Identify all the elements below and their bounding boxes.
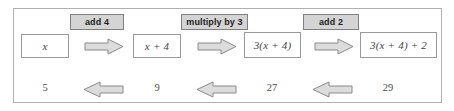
expression-box-4: 3(x + 4) + 2 xyxy=(360,32,437,58)
function-machine-diagram: add 4 multiply by 3 add 2 x x + 4 3(x + … xyxy=(0,0,454,111)
reverse-arrow-1 xyxy=(82,81,124,98)
forward-arrow-2 xyxy=(197,38,237,55)
expression-box-1-text: x xyxy=(42,40,47,52)
operation-chip-3-label: add 2 xyxy=(319,17,343,27)
operation-chip-3: add 2 xyxy=(303,14,359,30)
forward-arrow-1 xyxy=(84,38,124,55)
expression-box-4-text: 3(x + 4) + 2 xyxy=(370,39,427,51)
operation-chip-1-label: add 4 xyxy=(85,17,109,27)
expression-box-3-text: 3(x + 4) xyxy=(254,39,292,51)
reverse-value-1: 5 xyxy=(17,82,73,93)
expression-box-3: 3(x + 4) xyxy=(244,32,301,58)
reverse-value-3: 27 xyxy=(244,82,300,93)
operation-chip-1: add 4 xyxy=(70,14,124,30)
operation-chip-2: multiply by 3 xyxy=(181,14,248,30)
expression-box-2: x + 4 xyxy=(133,34,181,58)
expression-box-2-text: x + 4 xyxy=(145,40,169,52)
reverse-arrow-3 xyxy=(311,81,353,98)
reverse-arrow-2 xyxy=(195,81,237,98)
operation-chip-2-label: multiply by 3 xyxy=(186,17,242,27)
forward-arrow-3 xyxy=(314,38,354,55)
reverse-value-2: 9 xyxy=(129,82,185,93)
reverse-value-4: 29 xyxy=(360,82,416,93)
expression-box-1: x xyxy=(21,34,69,58)
